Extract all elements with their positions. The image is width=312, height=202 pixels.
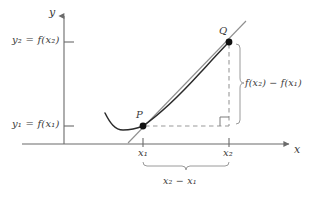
point-q-dot bbox=[226, 39, 233, 46]
run-annotation-label: x₂ − x₁ bbox=[163, 176, 197, 186]
y-axis-label: y bbox=[49, 7, 55, 18]
point-label-p: P bbox=[136, 110, 143, 120]
run-brace bbox=[143, 162, 229, 170]
y-tick-label-y1: y₁ = f(x₁) bbox=[12, 119, 60, 129]
y-tick-label-y2: y₂ = f(x₂) bbox=[12, 35, 60, 45]
function-curve bbox=[105, 42, 229, 130]
rise-brace bbox=[236, 44, 244, 124]
diagram-vector-layer bbox=[0, 0, 312, 202]
right-angle-marker bbox=[220, 117, 229, 126]
x-tick-label-x2: x₂ bbox=[223, 148, 233, 158]
point-p-dot bbox=[140, 123, 147, 130]
figure-canvas: y x y₂ = f(x₂) y₁ = f(x₁) x₁ x₂ P Q f(x₂… bbox=[0, 0, 312, 202]
x-axis-label: x bbox=[294, 144, 300, 155]
point-label-q: Q bbox=[219, 26, 227, 36]
rise-annotation-label: f(x₂) − f(x₁) bbox=[245, 78, 302, 88]
x-tick-label-x1: x₁ bbox=[138, 148, 148, 158]
